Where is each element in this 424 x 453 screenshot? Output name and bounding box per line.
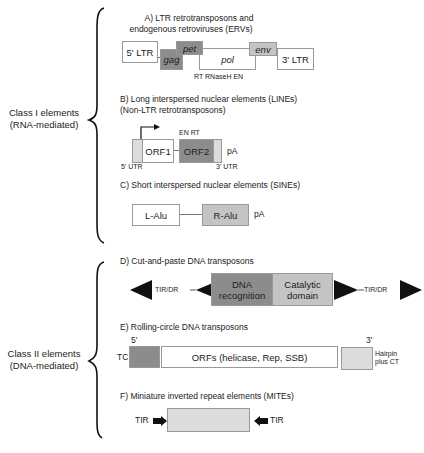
class-ii-subtitle: (DNA-mediated): [4, 360, 84, 372]
tc-box: [129, 346, 160, 368]
section-b-title: B) Long interspersed nuclear elements (L…: [120, 94, 297, 116]
utr3-box: [213, 139, 222, 163]
class-i-subtitle: (RNA-mediated): [4, 119, 84, 131]
orf2-domains: EN RT: [179, 129, 200, 137]
r-alu-box: R-Alu: [202, 204, 249, 226]
three-prime-label: 3': [366, 335, 372, 346]
orf2-box: ORF2: [179, 139, 214, 163]
section-d-title: D) Cut-and-paste DNA transposons: [120, 256, 254, 267]
pol-box: pol: [199, 48, 256, 70]
tir-dr-right-label: TIR/DR: [364, 286, 387, 294]
tir-right-label: TIR: [270, 415, 284, 426]
orfs-box: ORFs (helicase, Rep, SSB): [161, 346, 338, 368]
tir-left-arrow-icon: [254, 416, 268, 426]
section-c-title: C) Short interspersed nuclear elements (…: [120, 180, 300, 191]
utr5-label: 5' UTR: [121, 163, 143, 171]
l-alu-box: L-Alu: [132, 204, 180, 226]
class-ii-title: Class II elements: [4, 348, 84, 360]
sine-pa-label: pA: [254, 209, 264, 220]
orf1-box: ORF1: [142, 139, 174, 163]
class-i-title: Class I elements: [4, 107, 84, 119]
section-e-title: E) Rolling-circle DNA transposons: [120, 322, 248, 333]
ltr5-box: 5' LTR: [122, 41, 158, 63]
connector-line: [180, 214, 202, 215]
dna-recognition-box: DNA recognition: [211, 273, 273, 306]
class-ii-label: Class II elements (DNA-mediated): [4, 348, 84, 372]
tir-dr-left-label: TIR/DR: [155, 286, 178, 294]
hairpin-label: Hairpin plus CT: [375, 350, 399, 366]
catalytic-domain-box: Catalytic domain: [272, 273, 333, 306]
tc-label: TC: [117, 352, 128, 363]
tir-right-arrow-icon: [153, 416, 167, 426]
pol-domains: RT RNaseH EN: [194, 73, 243, 81]
mite-box: [167, 408, 250, 432]
utr3-label: 3' UTR: [216, 163, 238, 171]
five-prime-label: 5': [131, 335, 137, 346]
tir-left-label: TIR: [135, 415, 149, 426]
class-i-label: Class I elements (RNA-mediated): [4, 107, 84, 131]
env-box: env: [249, 42, 277, 56]
ltr3-box: 3' LTR: [277, 48, 314, 70]
pet-box: pet: [176, 41, 203, 55]
line-pa-label: pA: [227, 146, 237, 157]
section-f-title: F) Miniature inverted repeat elements (M…: [120, 391, 294, 402]
hairpin-box: [341, 347, 373, 370]
section-a-title: A) LTR retrotransposons and endogenous r…: [121, 13, 261, 35]
